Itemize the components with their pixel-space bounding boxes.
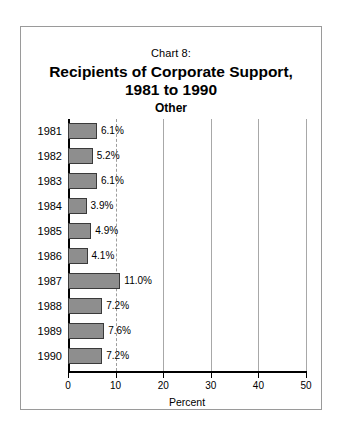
x-tick-30: [211, 372, 212, 378]
bar-value-label: 7.6%: [108, 323, 131, 339]
plot-area: 19816.1%19825.2%19836.1%19843.9%19854.9%…: [68, 119, 306, 371]
x-axis-title: Percent: [68, 396, 306, 408]
bar-value-label: 6.1%: [101, 173, 124, 189]
bar-value-label: 11.0%: [124, 273, 152, 289]
year-label: 1989: [38, 323, 62, 339]
year-label: 1981: [38, 123, 62, 139]
chart-title: Recipients of Corporate Support, 1981 to…: [21, 63, 321, 99]
bar: [68, 198, 87, 214]
chart-title-line1: Recipients of Corporate Support,: [49, 63, 293, 80]
gridline-50: [306, 119, 307, 371]
bar-value-label: 7.2%: [106, 348, 129, 364]
bar-row: 19897.6%: [68, 319, 306, 344]
bar-row: 19816.1%: [68, 119, 306, 144]
bar: [68, 348, 102, 364]
x-tick-50: [306, 372, 307, 378]
bar-row: 19825.2%: [68, 144, 306, 169]
bar-row: 19854.9%: [68, 219, 306, 244]
x-tick-label: 20: [158, 380, 169, 391]
x-tick-10: [116, 372, 117, 378]
x-axis-line: [68, 371, 307, 373]
chart-number: Chart 8:: [21, 47, 321, 59]
bar-value-label: 6.1%: [101, 123, 124, 139]
year-label: 1986: [38, 248, 62, 264]
x-tick-label: 30: [205, 380, 216, 391]
bar: [68, 323, 104, 339]
x-tick-label: 0: [65, 380, 71, 391]
bar: [68, 148, 93, 164]
chart-frame: Chart 8: Recipients of Corporate Support…: [20, 26, 322, 410]
bar: [68, 248, 88, 264]
chart-subtitle: Other: [21, 101, 321, 115]
bar-row: 19864.1%: [68, 244, 306, 269]
bar: [68, 173, 97, 189]
bar-value-label: 4.9%: [95, 223, 118, 239]
bar-value-label: 4.1%: [92, 248, 115, 264]
bar-row: 19836.1%: [68, 169, 306, 194]
year-label: 1984: [38, 198, 62, 214]
bar-value-label: 5.2%: [97, 148, 120, 164]
year-label: 1990: [38, 348, 62, 364]
bar-row: 19887.2%: [68, 294, 306, 319]
bar-row: 19843.9%: [68, 194, 306, 219]
bar-value-label: 7.2%: [106, 298, 129, 314]
year-label: 1987: [38, 273, 62, 289]
year-label: 1988: [38, 298, 62, 314]
bar-row: 19907.2%: [68, 344, 306, 369]
x-tick-label: 40: [253, 380, 264, 391]
bar: [68, 273, 120, 289]
year-label: 1982: [38, 148, 62, 164]
year-label: 1985: [38, 223, 62, 239]
x-tick-20: [163, 372, 164, 378]
x-tick-label: 50: [300, 380, 311, 391]
x-tick-label: 10: [110, 380, 121, 391]
bar: [68, 298, 102, 314]
x-tick-40: [258, 372, 259, 378]
year-label: 1983: [38, 173, 62, 189]
chart-title-line2: 1981 to 1990: [21, 81, 321, 99]
bar: [68, 123, 97, 139]
bar-series: 19816.1%19825.2%19836.1%19843.9%19854.9%…: [68, 119, 306, 371]
bar-row: 198711.0%: [68, 269, 306, 294]
bar-value-label: 3.9%: [91, 198, 114, 214]
bar: [68, 223, 91, 239]
x-tick-0: [68, 372, 69, 378]
